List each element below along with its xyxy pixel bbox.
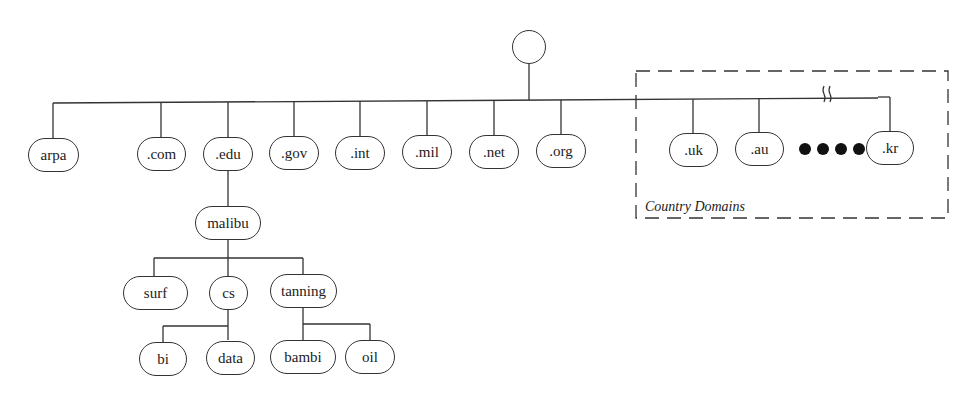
country-node-uk: .uk <box>669 133 718 167</box>
tld-node-org: .org <box>536 134 586 168</box>
tld-node-edu: .edu <box>203 137 253 171</box>
tld-node-net: .net <box>469 135 519 169</box>
tld-node-int: .int <box>335 136 385 170</box>
ellipsis-dot-icon <box>853 143 865 155</box>
node-data: data <box>206 341 255 375</box>
ellipsis-dot-icon <box>835 143 847 155</box>
node-tanning: tanning <box>270 274 337 308</box>
tree-edges <box>0 0 975 397</box>
node-oil: oil <box>345 340 395 374</box>
root-node <box>512 30 546 64</box>
country-domains-caption: Country Domains <box>645 199 745 215</box>
country-node-kr: .kr <box>866 131 914 165</box>
node-malibu: malibu <box>195 206 261 240</box>
ellipsis-dot-icon <box>799 143 811 155</box>
tld-node-gov: .gov <box>269 136 319 170</box>
break-mark-icon <box>823 86 831 102</box>
node-surf: surf <box>123 276 188 310</box>
node-cs: cs <box>209 276 248 310</box>
tld-node-arpa: arpa <box>28 138 79 172</box>
tld-node-com: .com <box>137 137 186 171</box>
tld-node-mil: .mil <box>402 135 452 169</box>
country-node-au: .au <box>735 132 784 166</box>
node-bi: bi <box>139 342 187 376</box>
ellipsis-dot-icon <box>817 143 829 155</box>
node-bambi: bambi <box>270 340 336 374</box>
